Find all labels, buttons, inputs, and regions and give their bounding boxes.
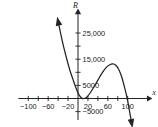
x-tick-label: 60	[104, 102, 112, 111]
x-tick-label: −20	[62, 102, 75, 111]
y-tick-label: 15,000	[83, 55, 106, 64]
y-axis-name: R	[72, 1, 78, 10]
y-tick-label: −5000	[83, 107, 104, 116]
x-axis-name: x	[151, 88, 156, 97]
curve-end-arrowhead	[128, 118, 136, 127]
curve-start-arrowhead	[54, 16, 62, 26]
x-tick-label: −60	[42, 102, 55, 111]
cubic-revenue-graph: −100−60−20206010025,00015,0005000−5000 R…	[0, 0, 158, 127]
x-tick-label: −100	[20, 102, 37, 111]
y-tick-label: 25,000	[83, 29, 106, 38]
chart-figure: −100−60−20206010025,00015,0005000−5000 R…	[0, 0, 158, 127]
